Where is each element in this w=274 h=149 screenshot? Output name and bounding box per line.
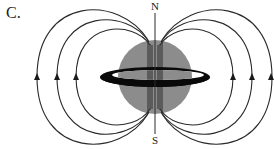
arrow-up-icon [34, 73, 40, 80]
arrow-up-icon [230, 73, 236, 80]
arrow-up-icon [249, 73, 255, 80]
arrow-up-icon [268, 73, 274, 80]
arrow-up-icon [54, 73, 60, 80]
arrow-up-icon [73, 73, 79, 80]
magnetic-field-diagram [0, 0, 274, 149]
